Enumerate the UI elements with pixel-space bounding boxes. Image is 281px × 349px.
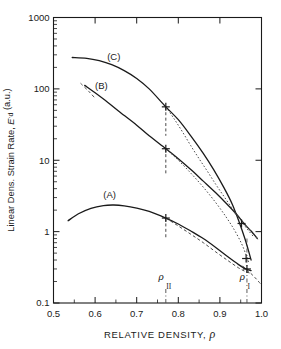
y-tick-labels: 0.11101001000 xyxy=(28,12,49,309)
y-tick-label: 100 xyxy=(34,83,50,94)
y-tick-label: 1000 xyxy=(28,12,49,23)
curve-b xyxy=(85,85,258,238)
annotation-lines xyxy=(166,107,247,303)
plus-marker xyxy=(242,255,250,263)
svg-text:ρ: ρ xyxy=(239,270,245,282)
curve-label-C: (C) xyxy=(107,51,120,62)
chart-svg: 0.11101001000 0.50.60.70.80.91.0 (A)(B)(… xyxy=(0,0,281,349)
plus-marker xyxy=(162,214,170,222)
annotation-labels: ρIIρI xyxy=(158,270,251,291)
y-tick-label: 10 xyxy=(39,155,50,166)
x-axis-title: RELATIVE DENSITY, ρ xyxy=(104,327,216,341)
y-tick-label: 1 xyxy=(44,226,49,237)
curve-label-B: (B) xyxy=(95,80,108,91)
svg-text:RELATIVE DENSITY, ρ: RELATIVE DENSITY, ρ xyxy=(104,327,216,341)
x-tick-label: 0.6 xyxy=(88,308,101,319)
x-tick-label: 0.5 xyxy=(47,308,60,319)
x-tick-labels: 0.50.60.70.80.91.0 xyxy=(47,308,268,319)
curve-a xyxy=(68,205,251,271)
svg-text:Linear Dens. Strain Rate, E.d: Linear Dens. Strain Rate, E.d (a.u.) xyxy=(2,88,16,231)
curve-c-branch xyxy=(166,107,253,236)
data-markers xyxy=(162,103,251,273)
y-axis-title-main: Linear Dens. Strain Rate, xyxy=(6,125,16,232)
x-tick-label: 0.8 xyxy=(172,308,185,319)
annotation-label-rho-II: ρII xyxy=(158,270,172,291)
x-tick-label: 1.0 xyxy=(255,308,268,319)
axis-ticks xyxy=(54,18,262,304)
curve-labels: (A)(B)(C) xyxy=(95,51,120,200)
y-tick-label: 0.1 xyxy=(36,297,49,308)
plot-frame xyxy=(54,18,262,304)
y-axis-title: Linear Dens. Strain Rate, E.d (a.u.) xyxy=(2,88,16,231)
x-tick-label: 0.7 xyxy=(130,308,143,319)
svg-text:ρ: ρ xyxy=(158,270,164,282)
chart-figure: 0.11101001000 0.50.60.70.80.91.0 (A)(B)(… xyxy=(0,0,281,349)
x-tick-label: 0.9 xyxy=(213,308,226,319)
svg-text:II: II xyxy=(166,282,171,291)
curve-label-A: (A) xyxy=(103,189,116,200)
svg-text:I: I xyxy=(247,282,250,291)
